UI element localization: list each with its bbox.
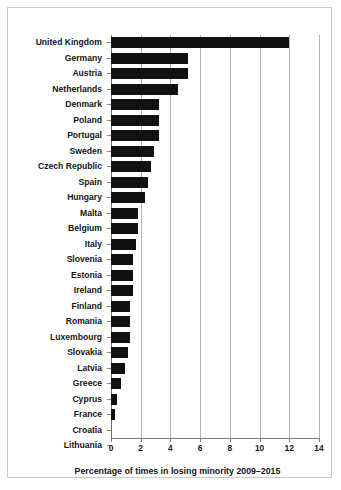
bar [111, 68, 188, 79]
category-label: Slovakia [0, 345, 102, 361]
gridline-14 [319, 35, 320, 438]
bar-row: Hungary [111, 190, 319, 206]
bar-row: Netherlands [111, 82, 319, 98]
bar-row: United Kingdom [111, 35, 319, 51]
category-label: Croatia [0, 423, 102, 439]
bar-row: Luxembourg [111, 330, 319, 346]
x-tick-label: 14 [304, 443, 334, 453]
category-label: Denmark [0, 97, 102, 113]
bar [111, 223, 138, 234]
x-tick-mark [141, 438, 142, 442]
bar-row: Belgium [111, 221, 319, 237]
category-label: Belgium [0, 221, 102, 237]
bar [111, 394, 117, 405]
bar-row: Estonia [111, 268, 319, 284]
bar [111, 115, 159, 126]
bar [111, 239, 136, 250]
bar-row: France [111, 407, 319, 423]
bar [111, 301, 130, 312]
bar-row: Malta [111, 206, 319, 222]
x-tick-mark [260, 438, 261, 442]
bar [111, 99, 159, 110]
x-tick-label: 4 [155, 443, 185, 453]
category-label: United Kingdom [0, 35, 102, 51]
x-tick-label: 12 [274, 443, 304, 453]
category-label: Netherlands [0, 82, 102, 98]
bar-row: Cyprus [111, 392, 319, 408]
bar-row: Italy [111, 237, 319, 253]
bar-row: Slovenia [111, 252, 319, 268]
category-label: Czech Republic [0, 159, 102, 175]
chart-figure: United KingdomGermanyAustriaNetherlandsD… [0, 0, 341, 490]
x-tick-mark [289, 438, 290, 442]
bar [111, 208, 138, 219]
bar [111, 347, 128, 358]
bar-row: Finland [111, 299, 319, 315]
category-label: Sweden [0, 144, 102, 160]
x-tick-label: 10 [245, 443, 275, 453]
plot-area: United KingdomGermanyAustriaNetherlandsD… [111, 35, 319, 438]
bar [111, 378, 121, 389]
category-label: Poland [0, 113, 102, 129]
category-label: Greece [0, 376, 102, 392]
category-label: Estonia [0, 268, 102, 284]
bar [111, 332, 130, 343]
x-axis-title: Percentage of times in losing minority 2… [15, 466, 340, 476]
bar-row: Latvia [111, 361, 319, 377]
bar [111, 161, 151, 172]
bar-row: Spain [111, 175, 319, 191]
category-label: Finland [0, 299, 102, 315]
x-tick-label: 0 [96, 443, 126, 453]
bar [111, 53, 188, 64]
chart-frame: United KingdomGermanyAustriaNetherlandsD… [7, 7, 332, 478]
bar [111, 192, 145, 203]
y-axis-tick [107, 430, 111, 431]
bar-row: Czech Republic [111, 159, 319, 175]
bar [111, 84, 178, 95]
category-label: Lithuania [0, 438, 102, 454]
bar-row: Romania [111, 314, 319, 330]
bar [111, 146, 154, 157]
x-tick-mark [319, 438, 320, 442]
bar-row: Austria [111, 66, 319, 82]
x-tick-mark [170, 438, 171, 442]
bar-row: Croatia [111, 423, 319, 439]
x-tick-label: 2 [126, 443, 156, 453]
x-tick-label: 8 [215, 443, 245, 453]
x-tick-mark [230, 438, 231, 442]
category-label: Luxembourg [0, 330, 102, 346]
category-label: Germany [0, 51, 102, 67]
category-label: Ireland [0, 283, 102, 299]
category-label: Slovenia [0, 252, 102, 268]
x-tick-mark [111, 438, 112, 442]
category-label: Malta [0, 206, 102, 222]
bar-row: Germany [111, 51, 319, 67]
bar-row: Greece [111, 376, 319, 392]
bar-row: Slovakia [111, 345, 319, 361]
bar [111, 37, 289, 48]
bar [111, 285, 133, 296]
x-axis-ticks: 02468101214 [111, 438, 319, 460]
bar [111, 177, 148, 188]
bar [111, 363, 125, 374]
category-label: Spain [0, 175, 102, 191]
category-label: Italy [0, 237, 102, 253]
category-label: Cyprus [0, 392, 102, 408]
category-label: Latvia [0, 361, 102, 377]
bar [111, 254, 133, 265]
bar [111, 409, 115, 420]
bar [111, 270, 133, 281]
bar [111, 316, 130, 327]
category-label: Austria [0, 66, 102, 82]
x-tick-label: 6 [185, 443, 215, 453]
x-tick-mark [200, 438, 201, 442]
category-label: Hungary [0, 190, 102, 206]
category-label: Portugal [0, 128, 102, 144]
bar-row: Portugal [111, 128, 319, 144]
category-label: Romania [0, 314, 102, 330]
bar-row: Ireland [111, 283, 319, 299]
bar-row: Sweden [111, 144, 319, 160]
bar [111, 130, 159, 141]
bar-row: Denmark [111, 97, 319, 113]
bar-row: Poland [111, 113, 319, 129]
